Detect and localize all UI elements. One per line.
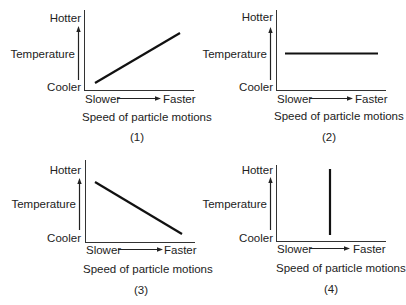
y-top-label: Hotter [40, 12, 81, 24]
y-axis-title: Temperature [5, 198, 76, 210]
y-top-label: Hotter [232, 11, 273, 23]
x-right-label: Faster [355, 93, 388, 105]
x-axis-title: Speed of particle motions [83, 263, 213, 275]
y-top-label: Hotter [40, 164, 81, 176]
y-axis-title: Temperature [5, 48, 75, 60]
x-axis-title: Speed of particle motions [276, 262, 406, 274]
graph-4-plot [200, 150, 398, 305]
data-line-decreasing [95, 182, 182, 234]
x-axis-title: Speed of particle motions [274, 110, 404, 122]
graph-panel-2: Hotter Temperature Cooler Slower Faster … [200, 0, 398, 150]
panel-caption: (4) [314, 283, 348, 295]
x-left-label: Slower [277, 93, 312, 105]
panel-caption: (1) [120, 131, 154, 143]
x-left-label: Slower [277, 243, 312, 255]
y-bottom-label: Cooler [40, 232, 81, 244]
y-axis-title: Temperature [196, 198, 267, 210]
graph-panel-4: Hotter Temperature Cooler Slower Faster … [200, 150, 398, 300]
y-top-label: Hotter [232, 164, 273, 176]
y-bottom-label: Cooler [40, 81, 81, 93]
y-bottom-label: Cooler [232, 81, 273, 93]
x-left-label: Slower [86, 244, 121, 256]
x-right-label: Faster [163, 93, 196, 105]
graph-1-plot [0, 0, 198, 150]
x-right-label: Faster [164, 244, 197, 256]
graph-panel-1: Hotter Temperature Cooler Slower Faster … [0, 0, 198, 150]
graph-3-plot [0, 150, 198, 305]
y-axis-title: Temperature [196, 48, 267, 60]
panel-caption: (3) [124, 284, 158, 296]
x-right-label: Faster [353, 243, 386, 255]
graph-2-plot [200, 0, 398, 150]
graph-panel-3: Hotter Temperature Cooler Slower Faster … [0, 150, 198, 300]
panel-caption: (2) [312, 131, 346, 143]
x-left-label: Slower [85, 93, 120, 105]
data-line-increasing [95, 33, 180, 83]
y-bottom-label: Cooler [232, 232, 273, 244]
x-axis-title: Speed of particle motions [82, 111, 212, 123]
